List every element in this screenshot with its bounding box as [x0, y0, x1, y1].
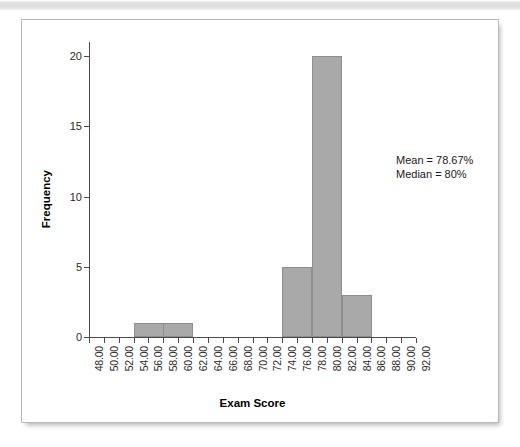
y-axis-title: Frequency	[40, 170, 52, 228]
x-axis-tick	[416, 338, 417, 343]
x-axis-tick-label: 64.00	[212, 346, 224, 371]
x-axis-tick-label: 92.00	[420, 346, 432, 371]
x-axis-tick	[89, 338, 90, 343]
median-annotation: Median = 80%	[396, 167, 473, 181]
x-axis-tick	[119, 338, 120, 343]
x-axis-tick-label: 82.00	[346, 346, 358, 371]
x-axis-tick-label: 60.00	[182, 346, 194, 371]
x-axis-tick	[134, 338, 135, 343]
y-axis-tick-label: 10	[70, 192, 82, 203]
x-axis-tick-label: 56.00	[152, 346, 164, 371]
x-axis-tick-label: 90.00	[405, 346, 417, 371]
x-axis-tick-label: 58.00	[167, 346, 179, 371]
x-axis-tick	[148, 338, 149, 343]
x-axis-tick	[208, 338, 209, 343]
x-axis-tick-label: 86.00	[375, 346, 387, 371]
x-axis-tick	[327, 338, 328, 343]
x-axis-tick-label: 48.00	[93, 346, 105, 371]
stats-annotation: Mean = 78.67% Median = 80%	[396, 153, 473, 181]
mean-annotation: Mean = 78.67%	[396, 153, 473, 167]
histogram-bar	[282, 267, 312, 337]
x-axis-tick	[193, 338, 194, 343]
x-axis-tick-label: 80.00	[331, 346, 343, 371]
x-axis-tick-label: 68.00	[242, 346, 254, 371]
y-axis-line	[89, 42, 90, 338]
x-axis-tick-label: 74.00	[286, 346, 298, 371]
x-axis-tick	[104, 338, 105, 343]
x-axis-tick-label: 66.00	[227, 346, 239, 371]
x-axis-tick	[223, 338, 224, 343]
histogram-plot: 05101520 48.0050.0052.0054.0056.0058.006…	[22, 20, 500, 424]
x-axis-tick-label: 88.00	[390, 346, 402, 371]
histogram-bar	[312, 56, 342, 337]
x-axis-tick	[282, 338, 283, 343]
x-axis-tick-label: 84.00	[361, 346, 373, 371]
x-axis-tick	[178, 338, 179, 343]
x-axis-tick-label: 50.00	[108, 346, 120, 371]
histogram-bar	[163, 323, 193, 337]
x-axis-tick-label: 76.00	[301, 346, 313, 371]
y-axis-tick	[84, 126, 89, 127]
x-axis-tick-label: 70.00	[257, 346, 269, 371]
x-axis-tick	[163, 338, 164, 343]
x-axis-tick	[401, 338, 402, 343]
y-axis-tick	[84, 267, 89, 268]
x-axis-tick	[357, 338, 358, 343]
x-axis-tick	[238, 338, 239, 343]
x-axis-tick-label: 78.00	[316, 346, 328, 371]
y-axis-tick	[84, 197, 89, 198]
x-axis-tick-label: 52.00	[123, 346, 135, 371]
x-axis-tick	[371, 338, 372, 343]
x-axis-tick-label: 54.00	[138, 346, 150, 371]
y-axis-tick-label: 0	[76, 332, 82, 343]
x-axis-tick	[342, 338, 343, 343]
x-axis-tick-label: 72.00	[271, 346, 283, 371]
histogram-bar	[134, 323, 164, 337]
x-axis-tick-label: 62.00	[197, 346, 209, 371]
x-axis-tick	[267, 338, 268, 343]
x-axis-tick	[253, 338, 254, 343]
figure-panel: 05101520 48.0050.0052.0054.0056.0058.006…	[21, 19, 499, 423]
histogram-bar	[342, 295, 372, 337]
y-axis-tick-label: 15	[70, 121, 82, 132]
x-axis-tick	[297, 338, 298, 343]
y-axis-tick-label: 20	[70, 51, 82, 62]
x-axis-tick	[312, 338, 313, 343]
y-axis-tick-label: 5	[76, 262, 82, 273]
y-axis-tick	[84, 56, 89, 57]
x-axis-tick	[386, 338, 387, 343]
top-decorative-band	[0, 0, 520, 10]
x-axis-title: Exam Score	[89, 397, 416, 409]
